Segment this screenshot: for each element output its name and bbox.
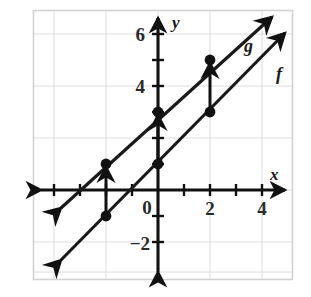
coordinate-plane: 6 4 −2 0 2 4 y x g f [0,0,311,297]
point-f-neg2-neg1 [101,211,112,222]
figure-background [0,0,311,297]
x-tick-label-4: 4 [257,198,267,219]
point-g-2-5 [205,55,216,66]
graph-figure: 6 4 −2 0 2 4 y x g f [0,0,311,297]
point-g-0-3 [153,107,164,118]
curve-label-g: g [243,36,253,56]
y-tick-label-4: 4 [136,76,146,97]
x-tick-label-2: 2 [205,198,215,219]
y-tick-label-6: 6 [136,24,146,45]
y-axis-label: y [170,13,180,32]
y-tick-label-neg-2: −2 [130,233,150,254]
origin-label: 0 [142,197,152,218]
x-axis-label: x [269,165,279,184]
point-f-2-3 [205,107,216,118]
point-g-neg2-1 [101,159,112,170]
point-f-0-1 [153,159,164,170]
